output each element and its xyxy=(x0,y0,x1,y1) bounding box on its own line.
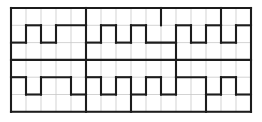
grid-tiling-diagram xyxy=(0,0,262,122)
figure-root xyxy=(0,0,262,122)
